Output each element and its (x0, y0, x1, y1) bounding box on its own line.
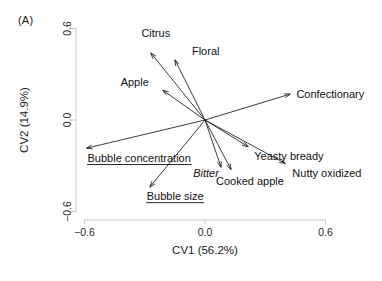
x-tick-label: 0.0 (198, 226, 213, 238)
vectors-group (87, 53, 291, 187)
vector-label-yeasty-bready: Yeasty bready (254, 150, 324, 162)
vector-label-apple: Apple (121, 76, 149, 88)
vector-labels-group: CitrusFloralAppleConfectionaryBubble con… (87, 27, 365, 203)
x-tick-label: −0.6 (74, 226, 95, 238)
vector-line-yeasty-bready (205, 120, 248, 147)
vector-label-cooked-apple: Cooked apple (216, 175, 284, 187)
axes-group: −0.60.00.6−0.60.00.6CV1 (56.2%)CV2 (14.9… (18, 21, 333, 256)
plot-canvas: −0.60.00.6−0.60.00.6CV1 (56.2%)CV2 (14.9… (0, 0, 382, 281)
vector-line-bubble-concentration (87, 120, 205, 148)
loading-plot-figure: (A) −0.60.00.6−0.60.00.6CV1 (56.2%)CV2 (… (0, 0, 382, 281)
arrowhead-cooked-apple (227, 163, 232, 169)
vector-line-floral (175, 60, 205, 120)
y-tick-label: 0.6 (61, 21, 73, 36)
x-tick-label: 0.6 (318, 226, 333, 238)
vector-label-nutty-oxidized: Nutty oxidized (292, 167, 361, 179)
vector-label-bubble-size: Bubble size (147, 190, 204, 202)
vector-label-floral: Floral (192, 45, 220, 57)
y-axis-title: CV2 (14.9%) (18, 87, 30, 153)
vector-line-confectionary (205, 94, 290, 120)
vector-label-citrus: Citrus (141, 27, 170, 39)
vector-label-bubble-concentration: Bubble concentration (88, 152, 191, 164)
x-axis-title: CV1 (56.2%) (172, 244, 238, 256)
vector-line-apple (163, 90, 205, 120)
y-tick-label: −0.6 (61, 201, 73, 222)
vector-label-confectionary: Confectionary (296, 88, 364, 100)
y-tick-label: 0.0 (61, 113, 73, 128)
